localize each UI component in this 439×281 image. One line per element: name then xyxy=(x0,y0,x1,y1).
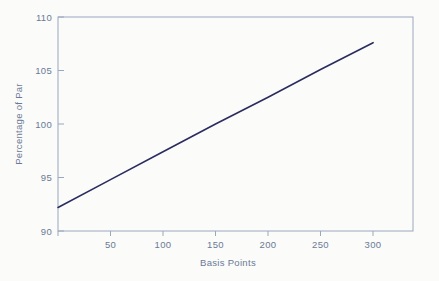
x-axis-ticks xyxy=(58,231,373,236)
line-chart: 110 105 100 95 90 50 100 150 200 250 300… xyxy=(0,0,439,281)
y-axis-title: Percentage of Par xyxy=(13,83,24,165)
x-tick-label-300: 300 xyxy=(365,239,382,250)
y-tick-label-95: 95 xyxy=(41,172,52,183)
data-line-price-vs-basis-points xyxy=(58,43,373,208)
y-tick-label-100: 100 xyxy=(35,119,52,130)
x-tick-label-150: 150 xyxy=(207,239,224,250)
chart-container: 110 105 100 95 90 50 100 150 200 250 300… xyxy=(0,0,439,281)
y-tick-label-105: 105 xyxy=(35,65,52,76)
x-tick-label-100: 100 xyxy=(155,239,172,250)
y-tick-label-90: 90 xyxy=(41,226,52,237)
x-tick-label-250: 250 xyxy=(312,239,329,250)
x-axis-title: Basis Points xyxy=(200,257,256,268)
x-tick-label-50: 50 xyxy=(105,239,116,250)
x-tick-label-200: 200 xyxy=(260,239,277,250)
y-tick-label-110: 110 xyxy=(36,12,52,23)
y-axis-ticks xyxy=(58,17,64,231)
